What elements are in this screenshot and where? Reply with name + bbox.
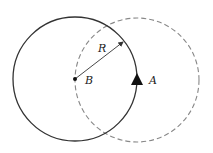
center-point-b: [73, 77, 77, 81]
label-r: R: [97, 42, 106, 55]
circle-diagram: R B A: [0, 0, 213, 153]
label-b: B: [84, 74, 93, 87]
triangle-marker-a: [131, 73, 143, 85]
label-a: A: [148, 74, 157, 87]
